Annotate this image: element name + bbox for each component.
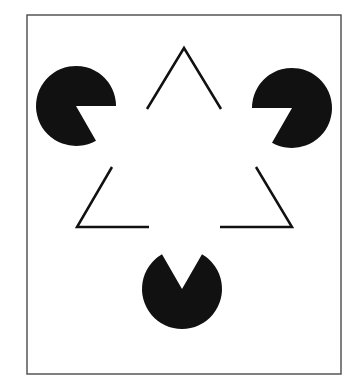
triangle-corner-3 bbox=[220, 167, 292, 227]
triangle-corner-2 bbox=[77, 167, 149, 227]
pacman-disc-3 bbox=[142, 254, 222, 329]
triangle-corner-1 bbox=[147, 48, 221, 109]
pacman-disc-1 bbox=[36, 66, 116, 146]
kanizsa-figure bbox=[0, 0, 360, 389]
pacman-disc-2 bbox=[252, 68, 332, 148]
